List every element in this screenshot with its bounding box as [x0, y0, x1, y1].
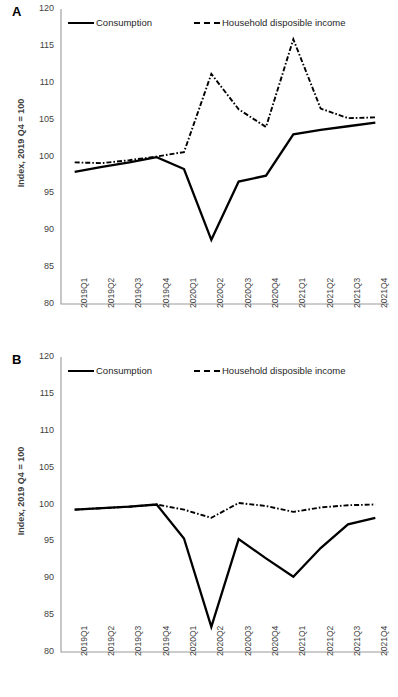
x-tick-label: 2019Q2: [106, 626, 116, 656]
y-tick-label: 80: [28, 298, 54, 308]
x-tick-label: 2021Q3: [352, 278, 362, 308]
x-tick-label: 2020Q1: [188, 278, 198, 308]
x-tick-label: 2019Q4: [161, 278, 171, 308]
x-tick-label: 2019Q4: [161, 626, 171, 656]
x-tick-label: 2019Q3: [133, 626, 143, 656]
series-line-household-disposible-income: [75, 39, 376, 163]
x-tick-label: 2020Q1: [188, 626, 198, 656]
x-tick-label: 2020Q2: [215, 278, 225, 308]
axis-lines: [61, 357, 389, 652]
x-tick-label: 2020Q4: [270, 278, 280, 308]
panel-b: B Index, 2019 Q4 = 100 Consumption House…: [0, 348, 398, 696]
panel-a: A Index, 2019 Q4 = 100 Consumption House…: [0, 0, 398, 348]
y-tick-label: 95: [28, 535, 54, 545]
y-tick-label: 105: [28, 462, 54, 472]
y-tick-label: 85: [28, 609, 54, 619]
x-tick-label: 2021Q2: [325, 278, 335, 308]
y-tick-label: 85: [28, 261, 54, 271]
x-tick-label: 2021Q1: [297, 278, 307, 308]
series-line-consumption: [75, 123, 376, 240]
y-tick-label: 110: [28, 425, 54, 435]
x-tick-label: 2021Q3: [352, 626, 362, 656]
x-tick-label: 2020Q3: [243, 278, 253, 308]
x-tick-label: 2021Q1: [297, 626, 307, 656]
x-tick-label: 2019Q2: [106, 278, 116, 308]
y-tick-label: 90: [28, 572, 54, 582]
x-tick-label: 2019Q1: [79, 626, 89, 656]
x-tick-label: 2021Q4: [379, 626, 389, 656]
x-tick-label: 2020Q2: [215, 626, 225, 656]
y-tick-label: 120: [28, 3, 54, 13]
panel-b-plot: [0, 348, 398, 696]
x-tick-label: 2019Q3: [133, 278, 143, 308]
y-tick-label: 115: [28, 388, 54, 398]
y-tick-label: 120: [28, 351, 54, 361]
y-tick-label: 115: [28, 40, 54, 50]
y-tick-label: 90: [28, 224, 54, 234]
axis-lines: [61, 9, 389, 304]
x-tick-label: 2021Q4: [379, 278, 389, 308]
y-tick-label: 105: [28, 114, 54, 124]
y-tick-label: 95: [28, 187, 54, 197]
series-line-consumption: [75, 505, 376, 627]
x-tick-label: 2019Q1: [79, 278, 89, 308]
x-tick-label: 2020Q4: [270, 626, 280, 656]
panel-a-plot: [0, 0, 398, 348]
series-line-household-disposible-income: [75, 503, 376, 518]
x-tick-label: 2021Q2: [325, 626, 335, 656]
x-tick-label: 2020Q3: [243, 626, 253, 656]
y-tick-label: 100: [28, 499, 54, 509]
y-tick-label: 110: [28, 77, 54, 87]
y-tick-label: 100: [28, 151, 54, 161]
y-tick-label: 80: [28, 646, 54, 656]
